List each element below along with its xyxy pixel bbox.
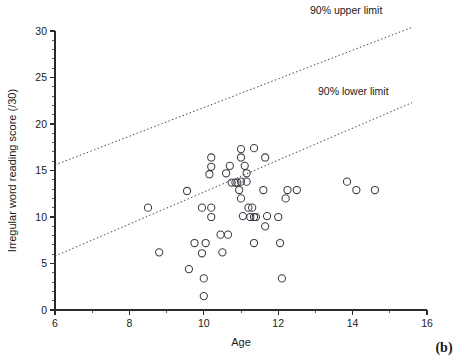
data-point bbox=[224, 231, 231, 238]
x-tick-label: 10 bbox=[198, 317, 210, 329]
data-point bbox=[371, 186, 378, 193]
data-point bbox=[275, 213, 282, 220]
limit-line-label: 90% upper limit bbox=[310, 4, 382, 16]
x-tick-label: 8 bbox=[126, 317, 132, 329]
data-point bbox=[250, 145, 257, 152]
data-point bbox=[198, 204, 205, 211]
y-tick-label: 5 bbox=[41, 257, 47, 269]
data-point bbox=[217, 231, 224, 238]
panel-label: (b) bbox=[435, 340, 452, 356]
x-tick-label: 14 bbox=[347, 317, 359, 329]
data-point bbox=[243, 178, 250, 185]
data-point bbox=[282, 195, 289, 202]
limit-line-labels: 90% upper limit90% lower limit bbox=[310, 4, 389, 97]
data-point bbox=[198, 250, 205, 257]
data-point bbox=[263, 212, 270, 219]
y-tick-label: 20 bbox=[35, 118, 47, 130]
y-axis-title: Irregular word reading score (/30) bbox=[6, 89, 18, 252]
data-point bbox=[237, 195, 244, 202]
y-tick-label: 0 bbox=[41, 304, 47, 316]
x-tick-label: 12 bbox=[272, 317, 284, 329]
data-point bbox=[243, 170, 250, 177]
data-point bbox=[208, 163, 215, 170]
y-tick-label: 30 bbox=[35, 25, 47, 37]
data-point bbox=[206, 171, 213, 178]
data-point bbox=[353, 186, 360, 193]
data-point bbox=[185, 265, 192, 272]
data-point bbox=[262, 223, 269, 230]
y-axis-major-ticks bbox=[50, 31, 55, 310]
data-point bbox=[278, 275, 285, 282]
data-point bbox=[208, 204, 215, 211]
data-point bbox=[250, 239, 257, 246]
reference-limit-lines bbox=[55, 27, 412, 256]
data-point bbox=[237, 154, 244, 161]
data-point bbox=[144, 204, 151, 211]
y-tick-label: 10 bbox=[35, 211, 47, 223]
data-point bbox=[239, 212, 246, 219]
data-point bbox=[200, 292, 207, 299]
data-point bbox=[262, 154, 269, 161]
limit-line-label: 90% lower limit bbox=[318, 85, 389, 97]
data-point bbox=[343, 178, 350, 185]
data-point bbox=[208, 154, 215, 161]
x-tick-label: 16 bbox=[421, 317, 433, 329]
data-point bbox=[219, 249, 226, 256]
data-point bbox=[226, 162, 233, 169]
y-tick-label: 25 bbox=[35, 71, 47, 83]
data-point bbox=[183, 187, 190, 194]
data-point bbox=[223, 170, 230, 177]
x-axis-tick-labels: 6810121416 bbox=[52, 317, 433, 329]
data-point bbox=[200, 275, 207, 282]
data-point bbox=[241, 162, 248, 169]
data-point bbox=[276, 239, 283, 246]
data-point bbox=[191, 239, 198, 246]
data-point bbox=[284, 186, 291, 193]
data-point bbox=[208, 213, 215, 220]
data-point bbox=[156, 249, 163, 256]
x-axis-title: Age bbox=[231, 336, 251, 348]
data-point bbox=[237, 146, 244, 153]
data-point bbox=[236, 186, 243, 193]
y-axis-tick-labels: 051015202530 bbox=[35, 25, 47, 316]
y-tick-label: 15 bbox=[35, 164, 47, 176]
data-point bbox=[260, 186, 267, 193]
x-tick-label: 6 bbox=[52, 317, 58, 329]
data-point bbox=[202, 239, 209, 246]
chart-canvas: 051015202530 6810121416 90% upper limit9… bbox=[0, 0, 466, 362]
scatter-plot-figure: 051015202530 6810121416 90% upper limit9… bbox=[0, 0, 466, 362]
data-point bbox=[293, 186, 300, 193]
